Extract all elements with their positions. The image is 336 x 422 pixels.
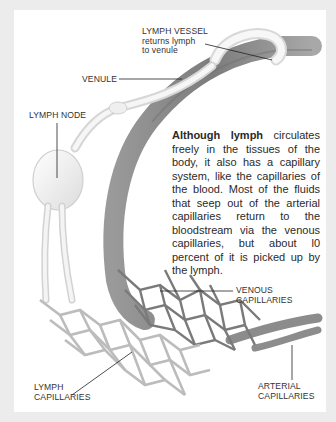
label-arterial-capillaries: ARTERIAL CAPILLARIES bbox=[258, 382, 315, 401]
label-lymph-capillaries: LYMPH CAPILLARIES bbox=[34, 383, 91, 402]
label-venous-line2: CAPILLARIES bbox=[236, 296, 293, 306]
caption-lead: Although lymph bbox=[172, 129, 263, 141]
label-lymph-node: LYMPH NODE bbox=[29, 111, 86, 121]
label-venous-capillaries: VENOUS CAPILLARIES bbox=[236, 286, 293, 305]
label-lymph-vessel-sub2: to venule bbox=[142, 46, 208, 56]
label-venule: VENULE bbox=[82, 75, 117, 85]
caption-body: circulates freely in the tissues of the … bbox=[172, 129, 320, 276]
caption-text: Although lymph circulates freely in the … bbox=[172, 129, 320, 278]
label-lymph-vessel: LYMPH VESSEL returns lymph to venule bbox=[142, 27, 208, 56]
lymph-node bbox=[33, 150, 83, 300]
label-lymph-cap-line2: CAPILLARIES bbox=[34, 393, 91, 403]
arterial-vessels bbox=[230, 318, 318, 348]
label-arterial-line2: CAPILLARIES bbox=[258, 392, 315, 402]
